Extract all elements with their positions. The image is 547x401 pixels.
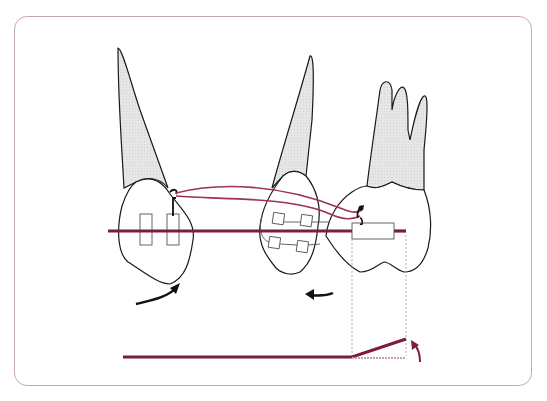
wire-bend-arrow xyxy=(411,340,420,362)
canine-root xyxy=(118,48,168,188)
molar-tooth xyxy=(326,82,431,272)
canine-rotation-arrow xyxy=(136,283,180,304)
molar-tube xyxy=(352,223,394,239)
molar-hook-ball xyxy=(359,206,364,211)
molar-roots xyxy=(367,82,427,190)
bent-archwire xyxy=(123,339,406,357)
orthodontic-diagram xyxy=(0,0,547,401)
premolar-root xyxy=(272,56,313,188)
canine-tooth xyxy=(118,48,193,284)
premolar-movement-arrow xyxy=(305,289,333,300)
